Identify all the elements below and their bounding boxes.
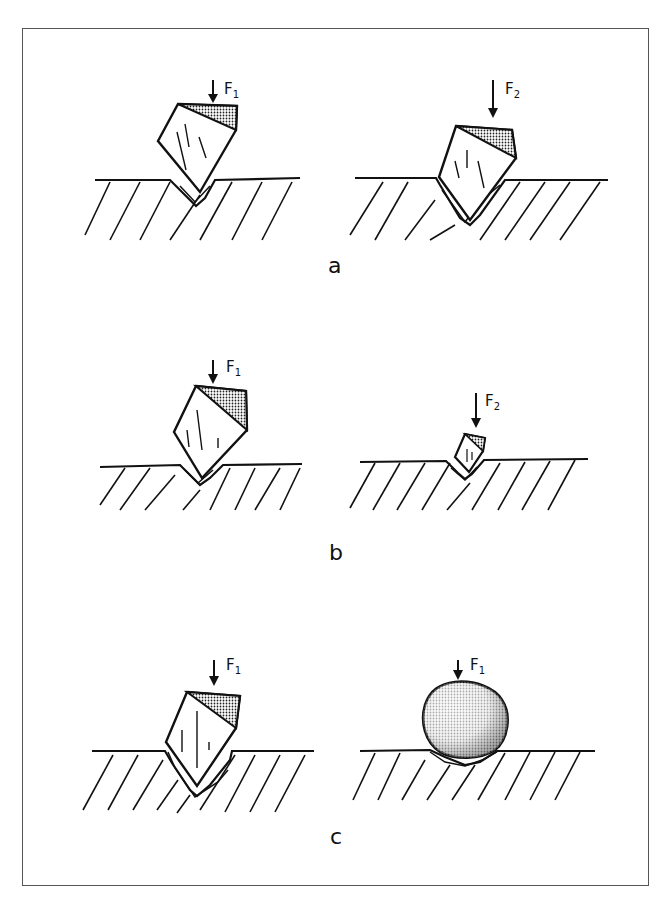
force-label-b-right: F2 [485, 392, 500, 412]
rounded-grit [423, 682, 507, 758]
force-label-b-left: F1 [226, 358, 241, 378]
panel-label-b: b [329, 540, 343, 565]
force-label-a-right: F2 [505, 80, 520, 100]
force-label-a-left: F1 [224, 80, 239, 100]
panel-label-c: c [330, 824, 342, 849]
force-arrow-icon [471, 393, 481, 428]
panel-a-left [85, 80, 300, 240]
force-label-c-right: F1 [470, 656, 485, 676]
force-label-c-left: F1 [226, 656, 241, 676]
panel-b-right [350, 393, 588, 510]
panel-c-left [83, 660, 314, 813]
panel-b-left [100, 360, 302, 510]
panel-a-right [350, 80, 608, 240]
figure-drawing [0, 0, 669, 915]
surface-hatch [85, 182, 292, 240]
force-arrow-icon [208, 80, 218, 103]
grit-crystal [455, 434, 485, 472]
force-arrow-icon [488, 80, 498, 118]
panel-c-right [353, 660, 595, 800]
force-arrow-icon [453, 660, 463, 680]
force-arrow-icon [208, 360, 218, 384]
panel-label-a: a [328, 253, 341, 278]
force-arrow-icon [209, 660, 219, 686]
